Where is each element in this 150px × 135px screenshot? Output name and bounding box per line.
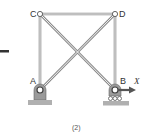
pin-support-a [28,84,52,105]
member-highlights [40,14,115,90]
joint-b-pin [112,87,118,93]
joint-a-pin [37,87,43,93]
label-c: C [30,9,37,19]
roller-support-b [103,84,129,106]
roller-2 [113,97,117,101]
load-label-x: X [133,76,140,86]
dash-mark [0,50,9,53]
figure-caption: (2) [72,124,81,132]
label-a: A [30,76,36,86]
joint-d [112,11,117,16]
joint-c [37,11,42,16]
roller-1 [109,97,113,101]
truss-diagram: C D A B X (2) [0,0,150,135]
roller-3 [118,97,122,101]
arrow-head-icon [129,87,136,94]
ground-b [103,101,129,106]
label-d: D [119,9,126,19]
label-b: B [120,76,126,86]
ground-a [28,100,52,105]
